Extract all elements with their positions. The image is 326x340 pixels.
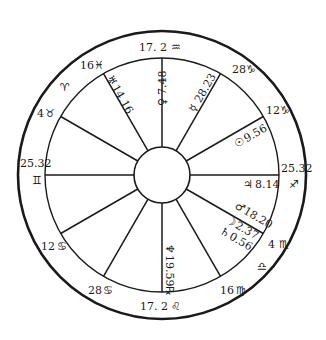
cusp-11-degree: 28 bbox=[232, 63, 246, 76]
spoke-cusp-3 bbox=[176, 199, 221, 276]
sagittarius-glyph-icon: ♐ bbox=[289, 178, 299, 191]
cusp-5-degree: 28 bbox=[88, 284, 102, 297]
cusp-2-degree: 4 bbox=[268, 238, 275, 251]
cusp-mc-degree: 17. 2 bbox=[139, 41, 167, 54]
cusp-asc-degree: 25.32 bbox=[281, 162, 313, 175]
capricorn-glyph-icon: ♑ bbox=[246, 63, 256, 76]
cusp-ic-degree: 17. 2 bbox=[140, 300, 168, 313]
venus-glyph-icon: ♀ bbox=[156, 98, 169, 106]
chart-wheel: 17. 2 ♒ 28 ♑ 12 ♑ 25.32 ♐ 4 ♏ 16 ♍ 17. 2… bbox=[0, 0, 326, 340]
hub-circle bbox=[134, 147, 190, 203]
scorpio-glyph-icon: ♏ bbox=[279, 238, 289, 251]
cusp-3-degree: 16 bbox=[220, 284, 234, 297]
cancer-glyph-icon: ♋ bbox=[103, 284, 113, 297]
planet-sun: ☉ 9.56 bbox=[232, 122, 269, 151]
cusp-12-degree: 12 bbox=[266, 104, 280, 117]
cusp-8-degree: 4 bbox=[37, 107, 44, 120]
cusp-9-degree: 16 bbox=[80, 59, 94, 72]
neptune-position: 19.59℞ bbox=[163, 255, 176, 297]
virgo-glyph-icon: ♍ bbox=[236, 284, 246, 297]
capricorn-glyph-icon: ♑ bbox=[280, 104, 290, 117]
gemini-glyph-icon: ♊ bbox=[32, 174, 42, 187]
venus-position: 7.48 bbox=[156, 71, 169, 96]
planet-labels: ♅ 14.16 ♀ 7.48 ☿ 28.23 ☉ 9.56 ♃ 8.14 ♂ 1… bbox=[103, 71, 279, 297]
leo-glyph-icon: ♌ bbox=[171, 300, 181, 313]
mercury-position: 28.23 bbox=[192, 71, 219, 105]
spoke-cusp-8 bbox=[61, 117, 138, 162]
spoke-cusp-6 bbox=[61, 189, 138, 234]
cusp-6-degree: 12 bbox=[41, 240, 55, 253]
cusp-dsc-degree: 25.32 bbox=[20, 157, 52, 170]
jupiter-position: 8.14 bbox=[255, 178, 280, 191]
pisces-glyph-icon: ♓ bbox=[94, 59, 104, 72]
jupiter-glyph-icon: ♃ bbox=[243, 178, 253, 191]
planet-jupiter: ♃ 8.14 bbox=[243, 178, 280, 191]
planet-neptune: ♆ 19.59℞ bbox=[163, 244, 176, 297]
planet-uranus: ♅ 14.16 bbox=[103, 73, 136, 116]
taurus-glyph-icon: ♉ bbox=[45, 107, 55, 120]
planet-venus: ♀ 7.48 bbox=[156, 71, 169, 107]
spoke-cusp-5 bbox=[104, 199, 149, 276]
aries-glyph-icon: ♈ bbox=[60, 81, 70, 94]
libra-glyph-icon: ♎ bbox=[257, 260, 267, 273]
sun-position: 9.56 bbox=[242, 122, 270, 146]
aquarius-glyph-icon: ♒ bbox=[171, 41, 181, 54]
neptune-glyph-icon: ♆ bbox=[163, 244, 176, 254]
cancer-glyph-icon: ♋ bbox=[57, 240, 67, 253]
uranus-position: 14.16 bbox=[109, 83, 136, 117]
planet-mercury: ☿ 28.23 bbox=[186, 71, 219, 114]
